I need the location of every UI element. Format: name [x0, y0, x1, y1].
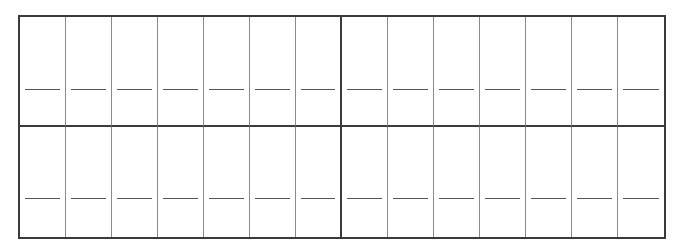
- answer-blank-line: [577, 89, 612, 90]
- answer-blank-line: [577, 198, 612, 199]
- answer-blank-line: [117, 89, 152, 90]
- answer-cell[interactable]: [434, 127, 480, 237]
- answer-cell[interactable]: [158, 17, 204, 127]
- answer-blank-line: [393, 89, 428, 90]
- answer-blank-line: [117, 198, 152, 199]
- answer-cell[interactable]: [388, 17, 434, 127]
- answer-cell[interactable]: [572, 127, 618, 237]
- answer-cell[interactable]: [20, 127, 66, 237]
- answer-blank-line: [347, 89, 382, 90]
- answer-blank-line: [531, 89, 566, 90]
- answer-cell[interactable]: [480, 127, 526, 237]
- answer-blank-line: [531, 198, 566, 199]
- answer-cell[interactable]: [296, 127, 342, 237]
- answer-cell[interactable]: [342, 127, 388, 237]
- answer-blank-line: [25, 89, 60, 90]
- answer-blank-line: [485, 198, 520, 199]
- answer-cell[interactable]: [66, 127, 112, 237]
- answer-blank-line: [255, 198, 290, 199]
- answer-cell[interactable]: [342, 17, 388, 127]
- answer-blank-line: [163, 198, 198, 199]
- answer-blank-line: [439, 198, 474, 199]
- answer-blank-line: [255, 89, 290, 90]
- answer-blank-line: [439, 89, 474, 90]
- answer-blank-line: [347, 198, 382, 199]
- answer-cell[interactable]: [526, 127, 572, 237]
- answer-blank-line: [301, 89, 335, 90]
- answer-cell[interactable]: [20, 17, 66, 127]
- answer-blank-line: [623, 89, 659, 90]
- answer-cell[interactable]: [388, 127, 434, 237]
- answer-blank-line: [71, 89, 106, 90]
- answer-cell[interactable]: [112, 17, 158, 127]
- answer-blank-line: [301, 198, 335, 199]
- answer-blank-line: [623, 198, 659, 199]
- answer-cell[interactable]: [112, 127, 158, 237]
- answer-cell[interactable]: [250, 127, 296, 237]
- answer-cell[interactable]: [572, 17, 618, 127]
- answer-cell[interactable]: [618, 127, 664, 237]
- answer-cell[interactable]: [434, 17, 480, 127]
- answer-blank-line: [25, 198, 60, 199]
- answer-cell[interactable]: [250, 17, 296, 127]
- answer-blank-line: [209, 198, 244, 199]
- answer-cell[interactable]: [480, 17, 526, 127]
- answer-blank-line: [209, 89, 244, 90]
- writing-grid: [18, 15, 666, 239]
- answer-blank-line: [485, 89, 520, 90]
- answer-cell[interactable]: [296, 17, 342, 127]
- answer-blank-line: [71, 198, 106, 199]
- answer-cell[interactable]: [66, 17, 112, 127]
- answer-blank-line: [393, 198, 428, 199]
- answer-cell[interactable]: [526, 17, 572, 127]
- answer-cell[interactable]: [158, 127, 204, 237]
- answer-cell[interactable]: [204, 17, 250, 127]
- answer-blank-line: [163, 89, 198, 90]
- answer-cell[interactable]: [618, 17, 664, 127]
- answer-cell[interactable]: [204, 127, 250, 237]
